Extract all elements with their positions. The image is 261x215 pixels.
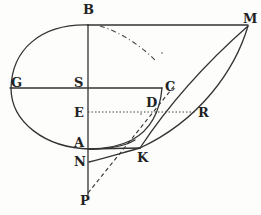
geometric-figure: B M G S C D E R A N K P [0,0,261,215]
ellipse-arc [11,25,135,149]
label-A: A [74,136,84,149]
label-K: K [137,151,148,164]
label-C: C [165,80,175,93]
label-M: M [243,12,257,25]
curve-MK [140,26,248,148]
dot [161,52,163,54]
label-P: P [80,194,90,207]
label-S: S [74,76,83,89]
label-D: D [146,96,157,109]
label-E: E [74,106,84,119]
dot [140,113,142,115]
dashdot-arc-B [100,26,155,60]
line-MK [140,26,248,148]
label-B: B [83,3,94,16]
dashed-PM [88,85,175,193]
label-N: N [74,155,86,168]
label-R: R [198,106,209,119]
label-G: G [11,76,22,89]
diagram-lines [0,0,261,215]
line-AK [88,148,140,149]
